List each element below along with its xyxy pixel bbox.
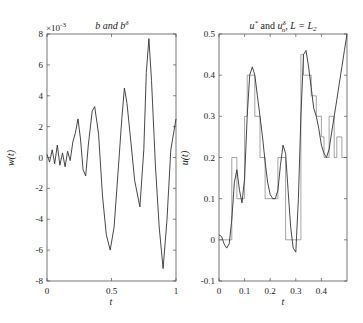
x-tick-label: 0.4 [316,286,328,296]
y-tick-label: 2 [39,122,44,132]
x-tick-label: 0.2 [265,286,276,296]
x-tick-label: 0.5 [106,286,118,296]
b-curve [47,39,176,269]
y-tick-label: -2 [36,183,44,193]
left-plot-title: b and bδ [95,19,129,31]
x-tick-label: 0 [45,286,50,296]
left-y-scale-label: ×10-3 [46,21,66,33]
y-tick-label: 6 [39,60,44,70]
right-x-ticks: 00.10.20.30.4 [217,34,328,296]
x-tick-label: 0.3 [290,286,302,296]
y-tick-label: 0.3 [204,111,216,121]
y-tick-label: 0 [39,153,44,163]
x-tick-label: 0.1 [239,286,250,296]
left-x-axis-label: t [110,296,113,307]
figure: b and bδ ×10-3 -8-6-4-202468 00.51 w(t) … [0,0,363,323]
y-tick-label: -8 [36,276,44,286]
left-plot: b and bδ ×10-3 -8-6-4-202468 00.51 w(t) … [5,19,178,307]
y-tick-label: 8 [39,29,44,39]
y-tick-label: 0.4 [204,70,216,80]
x-tick-label: 0 [217,286,222,296]
u-star-curve [219,34,347,252]
y-tick-label: 0.5 [204,29,216,39]
y-tick-label: -4 [36,214,44,224]
x-tick-label: 1 [174,286,179,296]
y-tick-label: 0.2 [204,153,215,163]
left-y-axis-label: w(t) [5,149,17,166]
right-plot-title: u* and uδn, L = L2 [250,19,317,34]
y-tick-label: 0.1 [204,194,215,204]
y-tick-label: 0 [211,235,216,245]
right-y-axis-label: u(t) [179,150,191,165]
y-tick-label: -0.1 [201,276,215,286]
right-plot: u* and uδn, L = L2 -0.100.10.20.30.40.5 … [179,19,347,307]
y-tick-label: -6 [36,245,44,255]
right-x-axis-label: t [282,296,285,307]
y-tick-label: 4 [39,91,44,101]
